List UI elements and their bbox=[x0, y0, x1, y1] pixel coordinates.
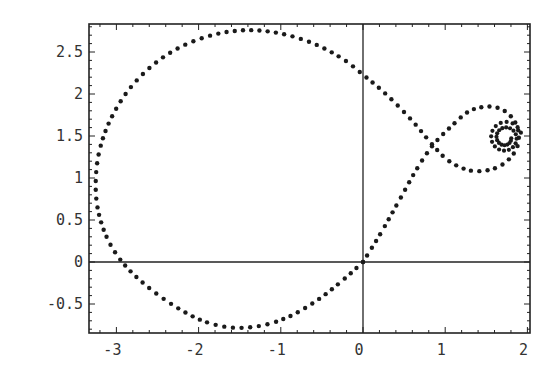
plot-frame bbox=[89, 24, 530, 333]
parametric-curve-plot: -3-2-1012 -0.500.511.522.5 bbox=[0, 0, 559, 383]
y-tick-label: 1.5 bbox=[56, 127, 83, 145]
y-tick-label: 2.5 bbox=[56, 43, 83, 61]
y-tick-labels: -0.500.511.522.5 bbox=[47, 43, 83, 313]
y-tick-label: 0.5 bbox=[56, 211, 83, 229]
y-tick-label: -0.5 bbox=[47, 295, 83, 313]
x-tick-label: -1 bbox=[268, 341, 286, 359]
x-tick-label: 1 bbox=[437, 341, 446, 359]
x-tick-label: -2 bbox=[186, 341, 204, 359]
x-tick-labels: -3-2-1012 bbox=[103, 341, 528, 359]
x-tick-label: 2 bbox=[519, 341, 528, 359]
y-tick-label: 1 bbox=[74, 169, 83, 187]
x-tick-label: 0 bbox=[354, 341, 363, 359]
y-tick-label: 0 bbox=[74, 253, 83, 271]
y-tick-label: 2 bbox=[74, 85, 83, 103]
frame-ticks bbox=[89, 24, 530, 333]
x-tick-label: -3 bbox=[103, 341, 121, 359]
curve-dots bbox=[94, 28, 523, 330]
